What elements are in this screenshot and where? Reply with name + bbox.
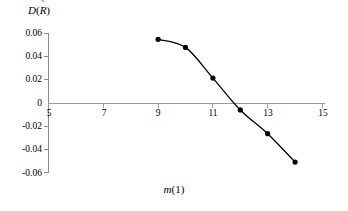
data-point [210,76,215,81]
y-tick-label-1: 0.04 [2,51,42,61]
data-point [238,107,243,112]
x-tick-label-5: 15 [313,108,333,118]
data-point [183,45,188,50]
chart-plot-area [0,0,348,211]
x-tick-label-4: 13 [258,108,278,118]
y-tick-label-2: 0.02 [2,74,42,84]
data-point [156,37,161,42]
y-tick-label-6: -0.06 [2,168,42,178]
data-point [265,131,270,136]
x-axis-label-m: m [164,183,172,195]
data-series [156,37,298,165]
data-point [293,159,298,164]
y-tick-label-5: -0.04 [2,144,42,154]
series-line [158,39,295,162]
x-tick-label-2: 9 [148,108,168,118]
series-markers [156,37,298,165]
x-tick-label-3: 11 [203,108,223,118]
y-tick-label-0: 0.06 [2,28,42,38]
x-tick-label-0: 5 [39,108,59,118]
y-tick-label-3: 0 [2,98,42,108]
chart-figure: D(˜R) 0.06 0.04 0.02 0 -0.02 -0.04 -0.06… [0,0,348,211]
x-axis-label: m(1) [0,183,348,195]
x-tick-label-1: 7 [94,108,114,118]
x-axis-label-paren: (1) [172,183,185,195]
y-tick-label-4: -0.02 [2,121,42,131]
